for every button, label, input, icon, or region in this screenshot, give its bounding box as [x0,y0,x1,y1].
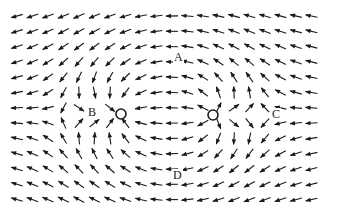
field-arrow [151,108,163,109]
field-arrow [151,92,163,94]
field-arrow [90,181,100,188]
field-arrow [11,108,23,109]
field-arrow [259,198,270,202]
field-arrow [74,105,84,112]
field-arrow [151,31,163,33]
field-arrow [306,107,318,108]
field-arrow [182,91,194,94]
field-arrow [61,133,67,143]
field-arrow [215,149,223,158]
field-arrow [229,104,239,111]
field-arrow [61,103,67,114]
field-arrow [198,135,207,142]
field-arrow [229,165,238,173]
field-arrow [290,60,301,64]
field-arrow [90,119,99,126]
field-arrow [151,168,163,170]
field-arrow [110,87,111,99]
field-arrow [182,31,194,32]
field-arrow [74,14,85,19]
field-arrow [27,60,38,65]
field-arrow [79,132,80,144]
field-arrow [306,198,318,201]
field-arrow [135,107,147,109]
field-arrow [213,44,224,49]
field-arrow [198,105,209,110]
field-arrow [197,183,208,187]
field-arrow [275,151,286,157]
field-arrow [261,119,269,128]
field-arrow [27,136,38,140]
field-arrow [151,46,163,48]
field-arrow [244,181,255,187]
field-arrow [259,14,270,17]
field-arrow [27,29,38,33]
field-arrow [290,152,301,156]
point-label-d: D [172,169,183,181]
field-arrow [246,118,254,127]
field-arrow [197,15,209,17]
field-arrow [197,45,208,49]
field-arrow [11,76,23,79]
field-arrow [182,16,194,17]
field-arrow [89,28,100,34]
field-arrow [213,29,224,33]
field-arrow [151,61,163,63]
field-arrow [27,182,38,187]
field-arrow [290,107,302,108]
field-arrow [120,29,131,33]
field-arrow [275,90,286,95]
field-arrow [261,88,268,97]
field-arrow [43,89,53,95]
field-arrow [290,183,301,187]
field-arrow [89,14,100,19]
field-arrow [120,182,131,187]
field-arrow [75,165,83,174]
field-arrow [90,43,100,50]
field-arrow [260,59,270,66]
field-arrow [43,182,54,187]
field-arrow [275,182,286,186]
field-arrow [11,183,22,187]
field-arrow [261,104,269,113]
field-arrow [27,91,38,95]
field-arrow [229,44,240,50]
field-arrow [59,58,68,66]
field-arrow [275,74,286,80]
field-arrow [11,14,23,17]
field-arrow [42,106,54,109]
field-arrow [135,60,146,65]
field-arrow [229,119,238,127]
field-arrow [244,197,255,201]
field-arrow [260,182,271,187]
field-arrow [290,15,302,18]
field-arrow [74,28,85,34]
field-arrow [121,73,130,81]
field-arrow [306,15,318,17]
field-arrow [60,73,68,82]
field-arrow [11,137,23,140]
field-arrow [120,14,131,17]
field-arrow [74,197,85,203]
field-arrow [182,137,194,140]
field-arrow [135,122,147,125]
field-arrow [75,119,83,128]
field-arrow [275,59,286,64]
field-arrow [306,60,318,63]
field-arrow [43,197,54,202]
field-arrow [27,75,38,80]
field-arrow [275,122,287,125]
field-arrow [106,165,115,173]
field-arrow [122,118,129,128]
field-arrow [182,168,194,171]
field-arrow [43,59,53,65]
field-arrow [92,72,96,83]
field-arrow [135,30,147,33]
field-arrow [43,135,53,142]
field-arrow [151,15,163,16]
right-circle [208,110,218,120]
charge-circles [116,109,218,120]
field-arrow [105,43,115,50]
field-arrow [275,198,286,202]
field-arrow [151,183,163,185]
